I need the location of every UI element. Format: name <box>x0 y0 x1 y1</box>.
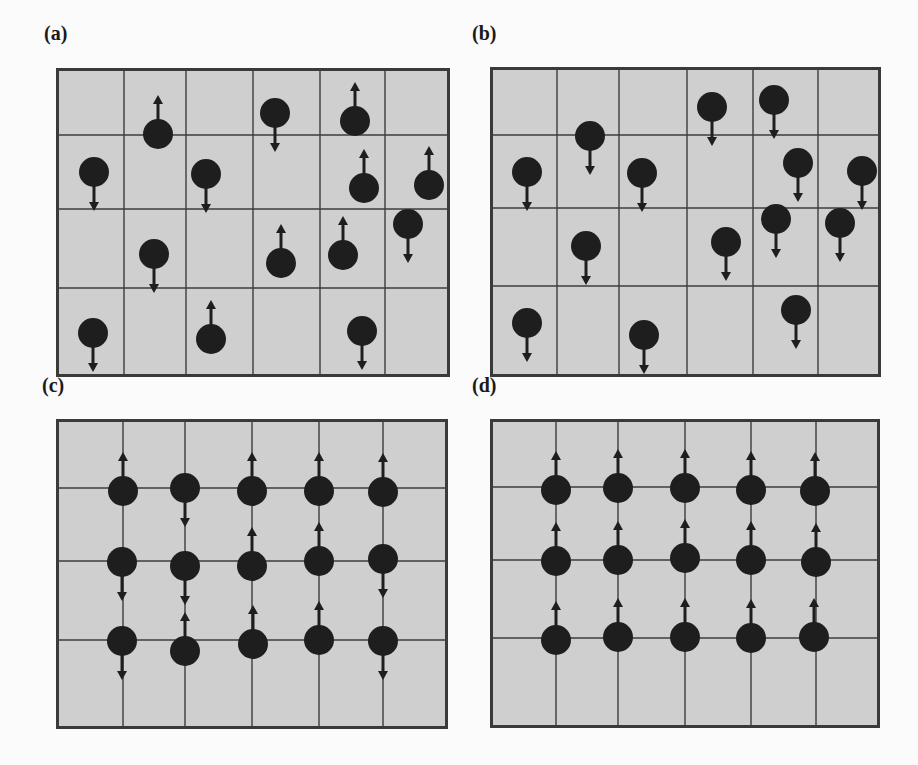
dipole-up-icon <box>237 452 267 506</box>
dipole-up-icon <box>541 522 571 576</box>
dipole-up-icon <box>304 522 334 576</box>
dipole-down-icon <box>78 318 108 372</box>
dipole-up-icon <box>736 451 766 505</box>
panel-b <box>490 67 881 377</box>
dipole-up-icon <box>801 523 831 577</box>
dipole-down-icon <box>847 156 877 210</box>
dipole-up-icon <box>541 451 571 505</box>
panel-label-c: (c) <box>42 374 64 397</box>
panel-label-d: (d) <box>472 374 496 397</box>
panel-label-a: (a) <box>44 22 67 45</box>
dipole-down-icon <box>571 231 601 285</box>
dipole-up-icon <box>340 82 370 136</box>
dipole-down-icon <box>759 85 789 139</box>
dipole-up-icon <box>800 452 830 506</box>
dipole-up-icon <box>603 521 633 575</box>
dipole-down-icon <box>191 159 221 213</box>
dipole-up-icon <box>108 452 138 506</box>
dipole-up-icon <box>603 598 633 652</box>
dipole-up-icon <box>304 452 334 506</box>
dipole-down-icon <box>139 239 169 293</box>
dipole-down-icon <box>347 316 377 370</box>
dipole-up-icon <box>736 599 766 653</box>
dipole-down-icon <box>170 473 200 527</box>
dipole-down-icon <box>711 227 741 281</box>
dipole-up-icon <box>799 598 829 652</box>
dipole-up-icon <box>328 216 358 270</box>
dipole-up-icon <box>349 149 379 203</box>
dipole-up-icon <box>266 224 296 278</box>
dipole-down-icon <box>107 547 137 601</box>
dipole-up-icon <box>670 519 700 573</box>
dipole-down-icon <box>107 626 137 680</box>
lattice-canvas-d <box>490 419 880 728</box>
dipole-down-icon <box>260 98 290 152</box>
panel-d <box>490 419 880 728</box>
dipole-up-icon <box>170 612 200 666</box>
dipole-up-icon <box>368 453 398 507</box>
dipole-down-icon <box>629 320 659 374</box>
dipole-up-icon <box>237 527 267 581</box>
dipole-down-icon <box>170 551 200 605</box>
dipole-down-icon <box>79 157 109 211</box>
lattice-canvas-b <box>490 67 881 377</box>
dipole-up-icon <box>304 601 334 655</box>
panel-a <box>56 68 450 377</box>
dipole-down-icon <box>761 204 791 258</box>
dipole-down-icon <box>575 121 605 175</box>
dipole-down-icon <box>512 308 542 362</box>
dipole-down-icon <box>697 92 727 146</box>
dipole-up-icon <box>143 95 173 149</box>
lattice-canvas-c <box>56 419 448 729</box>
dipole-down-icon <box>627 158 657 212</box>
dipole-down-icon <box>368 544 398 598</box>
lattice-canvas-a <box>56 68 450 377</box>
dipole-down-icon <box>781 295 811 349</box>
dipole-up-icon <box>238 605 268 659</box>
dipole-up-icon <box>670 449 700 503</box>
dipole-down-icon <box>393 209 423 263</box>
dipole-down-icon <box>783 148 813 202</box>
dipole-up-icon <box>736 521 766 575</box>
dipole-up-icon <box>603 449 633 503</box>
dipole-up-icon <box>414 146 444 200</box>
dipole-up-icon <box>541 601 571 655</box>
dipole-down-icon <box>368 626 398 680</box>
panel-label-b: (b) <box>472 22 496 45</box>
dipole-down-icon <box>825 208 855 262</box>
dipole-down-icon <box>512 157 542 211</box>
panel-c <box>56 419 448 729</box>
dipole-up-icon <box>196 300 226 354</box>
dipole-up-icon <box>670 598 700 652</box>
